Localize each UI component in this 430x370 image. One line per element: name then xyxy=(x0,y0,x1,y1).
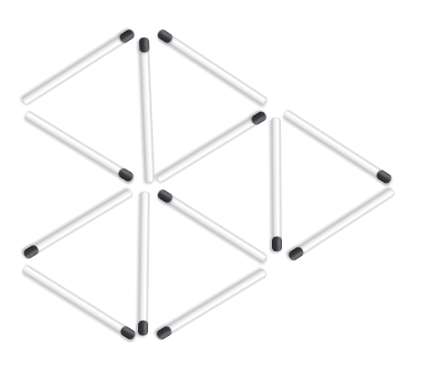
right-triangle-left-vertical[interactable] xyxy=(271,118,282,252)
right-triangle-left-vertical-head-icon xyxy=(272,236,282,251)
right-triangle-left-vertical-stick xyxy=(272,118,281,250)
matchstick-puzzle-stage xyxy=(0,0,430,370)
matchstick-scene xyxy=(0,0,430,370)
upper-center-vertical-head-icon xyxy=(139,37,150,52)
scene-background xyxy=(0,0,430,370)
lower-center-vertical-head-icon xyxy=(138,320,148,335)
